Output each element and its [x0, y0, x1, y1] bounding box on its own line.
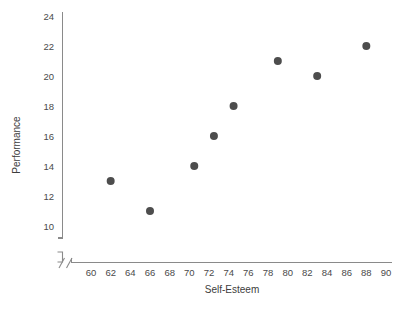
x-tick-label: 70: [184, 267, 195, 278]
x-tick-label: 82: [302, 267, 313, 278]
y-axis-title: Performance: [11, 116, 22, 174]
y-tick-label: 16: [43, 131, 54, 142]
x-axis-break-icon: [67, 258, 73, 268]
x-tick-label: 74: [223, 267, 234, 278]
x-tick-labels: 60626466687072747678808284868890: [86, 267, 392, 278]
x-tick-label: 68: [164, 267, 175, 278]
y-tick-label: 24: [43, 11, 54, 22]
data-point: [313, 72, 321, 80]
x-tick-label: 62: [105, 267, 116, 278]
y-tick-label: 18: [43, 101, 54, 112]
x-axis-title: Self-Esteem: [205, 284, 259, 295]
data-point: [230, 102, 238, 110]
data-point: [362, 42, 370, 50]
x-tick-label: 60: [86, 267, 97, 278]
x-tick-label: 86: [341, 267, 352, 278]
data-point: [146, 207, 154, 215]
x-tick-label: 66: [145, 267, 156, 278]
scatter-chart: 1012141618202224 60626466687072747678808…: [0, 0, 395, 313]
x-tick-label: 84: [322, 267, 333, 278]
data-point: [274, 57, 282, 65]
x-tick-label: 90: [381, 267, 392, 278]
x-tick-label: 72: [204, 267, 215, 278]
y-tick-label: 12: [43, 191, 54, 202]
data-point: [190, 162, 198, 170]
y-tick-label: 14: [43, 161, 54, 172]
x-tick-label: 78: [263, 267, 274, 278]
y-tick-label: 10: [43, 221, 54, 232]
x-tick-label: 64: [125, 267, 136, 278]
x-tick-label: 88: [361, 267, 372, 278]
chart-svg: 1012141618202224 60626466687072747678808…: [0, 0, 395, 313]
y-tick-labels: 1012141618202224: [43, 11, 54, 232]
x-tick-label: 76: [243, 267, 254, 278]
data-point: [107, 177, 115, 185]
data-points-layer: [107, 42, 371, 215]
data-point: [210, 132, 218, 140]
y-axis-break-icon: [58, 252, 65, 268]
x-tick-label: 80: [282, 267, 293, 278]
y-tick-label: 20: [43, 71, 54, 82]
y-tick-label: 22: [43, 41, 54, 52]
